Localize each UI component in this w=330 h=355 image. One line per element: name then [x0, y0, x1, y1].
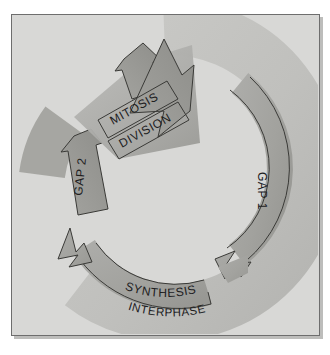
diagram-panel: GAP 1 GAP 2 SYNTHESIS INTERPHASE MITOSIS… — [11, 14, 320, 336]
cell-cycle-svg: GAP 1 GAP 2 SYNTHESIS INTERPHASE MITOSIS… — [12, 15, 318, 334]
cell-cycle-figure: GAP 1 GAP 2 SYNTHESIS INTERPHASE MITOSIS… — [0, 0, 330, 355]
label-gap1: GAP 1 — [255, 172, 269, 210]
